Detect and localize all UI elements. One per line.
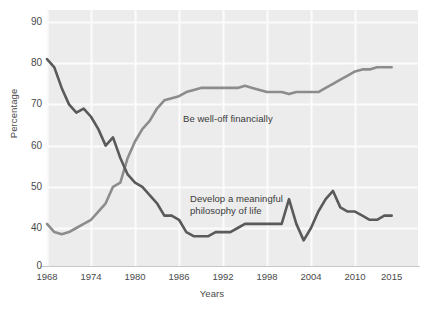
x-tick-1980: 1980 <box>115 272 155 282</box>
y-tick-60: 60 <box>18 141 42 151</box>
x-axis-title: Years <box>0 288 424 299</box>
series-label-philosophy-of-life: Develop a meaningful philosophy of life <box>190 193 283 217</box>
y-tick-50: 50 <box>18 182 42 192</box>
x-tick-1986: 1986 <box>159 272 199 282</box>
y-tick-40: 40 <box>18 223 42 233</box>
line-chart: 9080706050400 19681974198019861992199820… <box>0 0 424 319</box>
series-label-well-off-financially: Be well-off financially <box>183 113 273 125</box>
y-tick-70: 70 <box>18 99 42 109</box>
x-tick-1992: 1992 <box>203 272 243 282</box>
y-axis-title: Percentage <box>8 79 19 149</box>
x-tick-2010: 2010 <box>335 272 375 282</box>
x-tick-1968: 1968 <box>27 272 67 282</box>
x-tick-1974: 1974 <box>71 272 111 282</box>
x-tick-1998: 1998 <box>247 272 287 282</box>
y-tick-90: 90 <box>18 17 42 27</box>
y-tick-0: 0 <box>18 261 42 271</box>
x-tick-2015: 2015 <box>372 272 412 282</box>
y-tick-80: 80 <box>18 58 42 68</box>
x-tick-2004: 2004 <box>291 272 331 282</box>
